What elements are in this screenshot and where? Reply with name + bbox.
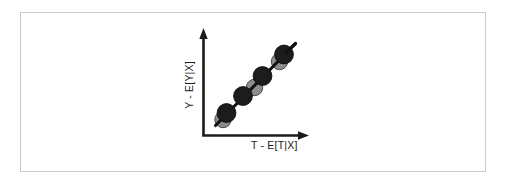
scatter-plot: T - E[T|X] Y - E[Y|X] bbox=[0, 0, 508, 186]
x-axis-arrowhead bbox=[298, 131, 309, 139]
y-axis-arrowhead bbox=[199, 28, 207, 39]
data-point-dark bbox=[234, 87, 253, 106]
plot-canvas bbox=[0, 0, 508, 186]
y-axis-label: Y - E[Y|X] bbox=[183, 54, 195, 116]
x-axis-label: T - E[T|X] bbox=[251, 139, 298, 151]
data-point-dark bbox=[253, 67, 272, 86]
screenshot-root: T - E[T|X] Y - E[Y|X] bbox=[0, 0, 508, 186]
data-point-dark bbox=[217, 104, 236, 123]
